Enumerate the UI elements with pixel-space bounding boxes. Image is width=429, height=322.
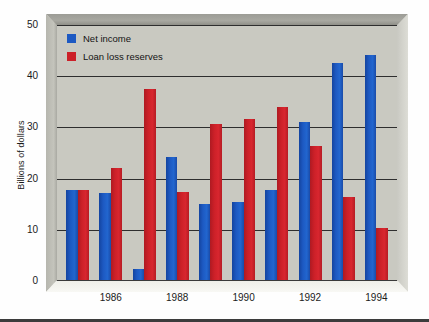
x-axis-tick-labels: 19861988199019921994	[57, 292, 397, 312]
chart-legend: Net incomeLoan loss reserves	[67, 30, 163, 66]
legend-item-loan-loss-reserves: Loan loss reserves	[67, 48, 163, 64]
y-tick-label-0: 0	[16, 275, 38, 286]
frame-bottom-floor	[46, 281, 408, 292]
x-tick-label-1992: 1992	[299, 292, 321, 303]
frame-left-bevel	[46, 14, 57, 292]
legend-item-net-income: Net income	[67, 30, 163, 46]
legend-swatch-icon	[67, 52, 76, 61]
gridline-50	[57, 25, 397, 26]
frame-top-bevel	[46, 14, 408, 25]
x-tick-label-1990: 1990	[232, 292, 254, 303]
bar-chart-figure: Billions of dollars 01020304050 Net inco…	[0, 0, 429, 322]
bar-loan-loss-reserves-1991	[277, 107, 289, 281]
legend-label: Net income	[83, 33, 131, 44]
bar-loan-loss-reserves-1992	[310, 146, 322, 281]
bar-net-income-1985	[66, 190, 78, 281]
bar-net-income-1988	[166, 157, 178, 281]
y-axis-tick-labels: 01020304050	[8, 0, 38, 322]
y-tick-label-40: 40	[16, 70, 38, 81]
gridline-40	[57, 76, 397, 77]
bar-net-income-1986	[99, 193, 111, 281]
x-tick-label-1988: 1988	[166, 292, 188, 303]
bar-loan-loss-reserves-1985	[78, 190, 90, 281]
y-tick-label-50: 50	[16, 19, 38, 30]
bar-loan-loss-reserves-1994	[376, 228, 388, 281]
bar-net-income-1990	[232, 202, 244, 281]
bar-loan-loss-reserves-1988	[177, 192, 189, 281]
legend-label: Loan loss reserves	[83, 51, 163, 62]
bar-net-income-1994	[365, 55, 377, 281]
bar-loan-loss-reserves-1993	[343, 197, 355, 281]
plot-area: Net incomeLoan loss reserves	[57, 25, 397, 281]
x-axis-line	[57, 280, 397, 281]
bar-loan-loss-reserves-1986	[111, 168, 123, 281]
legend-swatch-icon	[67, 34, 76, 43]
y-tick-label-10: 10	[16, 224, 38, 235]
bar-net-income-1991	[265, 190, 277, 281]
x-tick-label-1986: 1986	[100, 292, 122, 303]
bar-net-income-1992	[299, 122, 311, 281]
bar-loan-loss-reserves-1990	[244, 119, 256, 281]
bar-net-income-1989	[199, 204, 211, 281]
bar-loan-loss-reserves-1987	[144, 89, 156, 281]
frame-right-bevel	[397, 14, 408, 292]
bar-loan-loss-reserves-1989	[210, 124, 222, 281]
y-tick-label-30: 30	[16, 121, 38, 132]
gridline-30	[57, 127, 397, 128]
gridline-20	[57, 179, 397, 180]
y-tick-label-20: 20	[16, 173, 38, 184]
x-tick-label-1994: 1994	[365, 292, 387, 303]
bar-net-income-1993	[332, 63, 344, 281]
